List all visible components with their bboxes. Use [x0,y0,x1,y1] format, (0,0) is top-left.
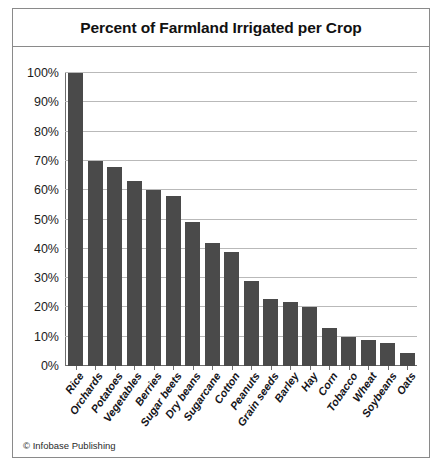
bar [322,328,337,366]
y-tick-label: 30% [34,271,59,285]
y-tick-label: 40% [34,242,59,256]
bar-slot [261,73,280,366]
y-tick-label: 80% [34,125,59,139]
bar-slot [144,73,163,366]
credit-line: © Infobase Publishing [23,440,116,451]
chart-body: 0%10%20%30%40%50%60%70%80%90%100% RiceOr… [13,47,429,458]
x-tick-label: Oats [394,370,418,397]
bar-slot [183,73,202,366]
y-tick-label: 10% [34,330,59,344]
bar-slot [242,73,261,366]
bar-slot [300,73,319,366]
plot-area: 0%10%20%30%40%50%60%70%80%90%100% [65,73,417,366]
bar-slot [281,73,300,366]
page-title: Percent of Farmland Irrigated per Crop [80,19,361,37]
bar-slot [222,73,241,366]
bar-slot [398,73,417,366]
bar [400,353,415,366]
bar-slot [164,73,183,366]
bar [68,73,83,366]
bar-slot [359,73,378,366]
bar [205,243,220,366]
y-tick-label: 20% [34,300,59,314]
bar [341,337,356,366]
bar [263,299,278,366]
bar [361,340,376,366]
bar [283,302,298,366]
chart-title-bar: Percent of Farmland Irrigated per Crop [13,9,429,47]
bar [107,167,122,366]
y-tick-label: 100% [27,66,59,80]
bar [166,196,181,366]
bar [88,161,103,366]
chart-figure: Percent of Farmland Irrigated per Crop 0… [12,8,430,458]
y-tick-label: 50% [34,213,59,227]
bar-slot [66,73,85,366]
bar [380,343,395,366]
bar-series [66,73,417,366]
bar [185,222,200,366]
bar [146,190,161,366]
bar-slot [203,73,222,366]
bar-slot [125,73,144,366]
bar [224,252,239,366]
y-tick-label: 90% [34,95,59,109]
bar-slot [378,73,397,366]
y-tick-label: 70% [34,154,59,168]
y-tick-label: 60% [34,183,59,197]
y-tick-label: 0% [41,359,59,373]
bar-slot [105,73,124,366]
bar-slot [339,73,358,366]
bar [127,181,142,366]
bar-slot [85,73,104,366]
x-axis-tick-labels: RiceOrchardsPotatoesVegetablesBerriesSug… [66,366,418,452]
bar-slot [320,73,339,366]
bar [302,307,317,366]
bar [244,281,259,366]
